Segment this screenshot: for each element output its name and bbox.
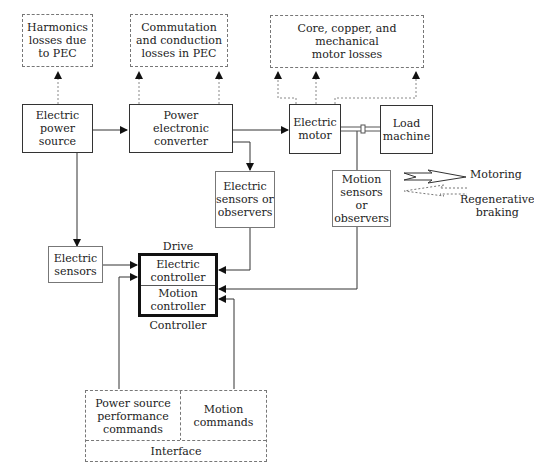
electric-controller: Electric controller — [141, 256, 215, 286]
harmonics-losses-box: Harmonics losses due to PEC — [22, 14, 93, 67]
motion-controller: Motion controller — [141, 286, 215, 314]
load-machine-block: Load machine — [380, 105, 433, 154]
regenerative-braking-label: Regenerative braking — [460, 193, 534, 219]
converter-label: Power electronic converter — [153, 109, 209, 148]
power-commands-label: Power source performance commands — [95, 397, 171, 436]
electric-sensors-block: Electric sensors — [48, 246, 103, 283]
power-source-label: Electric power source — [36, 109, 80, 148]
drive-label: Drive — [138, 240, 218, 253]
interface-box: Power source performance commands Motion… — [85, 390, 267, 462]
motor-losses-label: Core, copper, and mechanical motor losse… — [271, 22, 423, 61]
controller-label: Controller — [138, 319, 218, 332]
electric-sensors-observers-block: Electric sensors or observers — [215, 171, 275, 228]
power-source-block: Electric power source — [22, 104, 93, 153]
motion-sensors-observers-label: Motion sensors or observers — [333, 173, 390, 225]
motion-controller-label: Motion controller — [151, 287, 206, 313]
harmonics-losses-label: Harmonics losses due to PEC — [27, 21, 88, 60]
connector-lines — [0, 0, 534, 474]
commutation-losses-box: Commutation and conduction losses in PEC — [130, 14, 228, 67]
interface-label-box: Interface — [86, 440, 266, 461]
motion-sensors-observers-block: Motion sensors or observers — [332, 170, 391, 227]
load-machine-label: Load machine — [383, 117, 430, 143]
converter-block: Power electronic converter — [129, 104, 233, 153]
commutation-losses-label: Commutation and conduction losses in PEC — [136, 21, 222, 60]
motor-losses-box: Core, copper, and mechanical motor losse… — [270, 15, 424, 68]
electric-sensors-observers-label: Electric sensors or observers — [216, 180, 274, 219]
motion-commands-box: Motion commands — [181, 391, 266, 441]
motion-commands-label: Motion commands — [194, 403, 254, 429]
motor-block: Electric motor — [289, 104, 341, 154]
interface-label: Interface — [151, 445, 202, 458]
electric-controller-label: Electric controller — [151, 258, 206, 284]
controller-block: Electric controller Motion controller — [138, 253, 218, 317]
motor-label: Electric motor — [293, 116, 337, 142]
motoring-label: Motoring — [470, 168, 522, 181]
power-commands-box: Power source performance commands — [86, 391, 181, 441]
electric-sensors-label: Electric sensors — [54, 252, 98, 278]
